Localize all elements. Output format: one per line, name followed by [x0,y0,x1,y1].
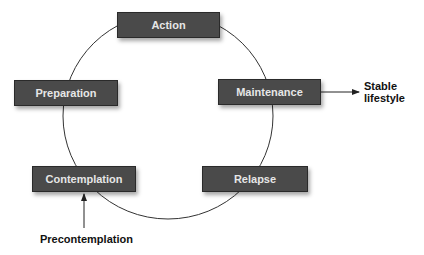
entry-label: Precontemplation [40,233,133,245]
stage-contemplation-label: Contemplation [46,173,123,185]
exit-label-line2: lifestyle [364,92,405,104]
stage-preparation-label: Preparation [35,87,96,99]
stage-relapse-label: Relapse [234,173,276,185]
exit-label-line1: Stable [364,80,405,92]
cycle-diagram [0,0,424,255]
stage-action-label: Action [151,19,185,31]
exit-label: Stable lifestyle [364,80,405,104]
stage-relapse: Relapse [202,166,308,192]
stage-contemplation: Contemplation [32,166,136,192]
stage-preparation: Preparation [14,80,118,106]
stage-maintenance-label: Maintenance [236,86,303,98]
stage-maintenance: Maintenance [218,79,321,105]
stage-action: Action [117,12,220,38]
